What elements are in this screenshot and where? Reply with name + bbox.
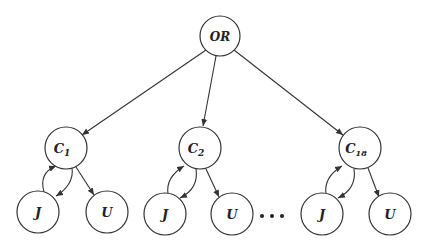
c1-edges bbox=[43, 166, 94, 196]
node-c2-sub: 2 bbox=[197, 148, 204, 158]
node-u1-label: U bbox=[101, 205, 113, 220]
node-or-label: OR bbox=[210, 30, 230, 44]
node-u3-label: U bbox=[384, 207, 396, 222]
node-c1-label: C bbox=[54, 141, 65, 156]
c18-edges bbox=[326, 166, 379, 198]
edge-c18-j3 bbox=[338, 169, 354, 198]
edge-c18-u3 bbox=[368, 168, 379, 197]
edge-c2-u2 bbox=[206, 169, 219, 197]
node-c2-label: C bbox=[188, 141, 199, 156]
c2-edges bbox=[168, 166, 219, 198]
node-j3: J bbox=[301, 193, 343, 235]
edge-j3-c18 bbox=[326, 166, 342, 194]
ellipsis-dot bbox=[270, 214, 274, 218]
node-u1: U bbox=[86, 191, 128, 233]
node-c18-label: C bbox=[345, 141, 356, 156]
node-u2-label: U bbox=[226, 207, 238, 222]
edge-c2-j2 bbox=[180, 169, 196, 198]
edge-j2-c2 bbox=[168, 166, 184, 194]
root-edges bbox=[82, 50, 343, 135]
ellipsis-dot bbox=[280, 214, 284, 218]
ellipsis-dots bbox=[260, 214, 284, 218]
edge-or-c18 bbox=[234, 50, 343, 135]
node-c2: C2 bbox=[179, 127, 221, 169]
node-c18-sub: 18 bbox=[356, 148, 368, 158]
edge-c1-j1 bbox=[56, 168, 72, 196]
node-c1-sub: 1 bbox=[64, 148, 70, 158]
edge-c1-u1 bbox=[76, 167, 94, 195]
node-j2: J bbox=[144, 193, 186, 235]
node-u3: U bbox=[369, 193, 411, 235]
diagram-canvas: OR C1 J U C2 J U C18 J U bbox=[0, 0, 426, 251]
edge-or-c2 bbox=[203, 56, 216, 126]
edge-or-c1 bbox=[82, 50, 206, 135]
node-c18: C18 bbox=[339, 127, 381, 169]
edge-j1-c1 bbox=[43, 166, 56, 192]
node-u2: U bbox=[211, 193, 253, 235]
ellipsis-dot bbox=[260, 214, 264, 218]
node-c1: C1 bbox=[45, 127, 87, 169]
node-j1: J bbox=[17, 191, 59, 233]
node-or: OR bbox=[200, 16, 240, 56]
